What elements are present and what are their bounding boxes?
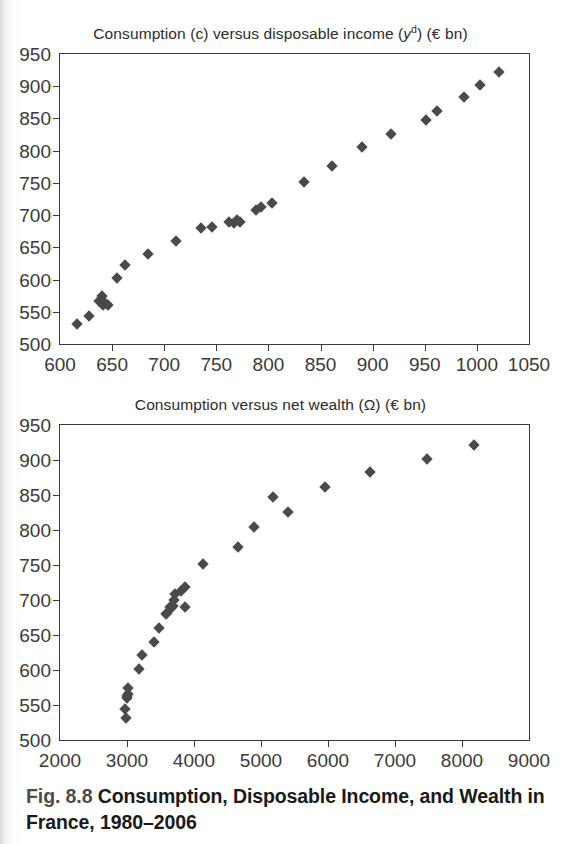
chart-2-data-point xyxy=(267,491,278,502)
chart-2-data-point xyxy=(232,541,243,552)
chart-1-ytick xyxy=(53,86,60,87)
chart-1-data-point xyxy=(493,66,504,77)
chart-2-xtick xyxy=(328,740,329,747)
chart-2-xtick-label: 4000 xyxy=(173,751,215,770)
chart-1-data-point xyxy=(266,197,277,208)
chart-1-data-point xyxy=(170,235,181,246)
chart-2-data-point xyxy=(137,649,148,660)
chart-1-xtick xyxy=(112,344,113,351)
chart-2-data-point xyxy=(197,559,208,570)
chart-1-xtick-label: 650 xyxy=(96,355,128,374)
chart-2-ytick-label: 800 xyxy=(19,521,51,540)
chart-2-title: Consumption versus net wealth (Ω) (€ bn) xyxy=(0,395,561,414)
chart-1-data-point xyxy=(432,105,443,116)
chart-2-ytick-label: 550 xyxy=(19,696,51,715)
chart-2-ytick-label: 700 xyxy=(19,591,51,610)
chart-1-data-point xyxy=(142,248,153,259)
chart-1-ytick xyxy=(53,312,60,313)
chart-1-data-point xyxy=(326,160,337,171)
figure-page: Consumption (c) versus disposable income… xyxy=(0,0,561,844)
chart-2-xtick xyxy=(261,740,262,747)
chart-1-ytick-label: 800 xyxy=(19,141,51,160)
chart-1-title-post: ) (€ bn) xyxy=(417,25,468,42)
chart-2-xtick-label: 9000 xyxy=(508,751,550,770)
chart-2-xtick-label: 8000 xyxy=(441,751,483,770)
chart-1-ytick xyxy=(53,215,60,216)
chart-2-data-point xyxy=(153,622,164,633)
chart-2-ytick xyxy=(53,495,60,496)
chart-1-ytick-label: 750 xyxy=(19,173,51,192)
chart-1-data-point xyxy=(84,310,95,321)
chart-1-xtick xyxy=(425,344,426,351)
chart-2-ytick xyxy=(53,705,60,706)
chart-2-ytick-label: 500 xyxy=(19,731,51,750)
chart-1-xtick xyxy=(164,344,165,351)
chart-1-ytick xyxy=(53,118,60,119)
chart-1-ytick-label: 900 xyxy=(19,77,51,96)
chart-1-ytick xyxy=(53,183,60,184)
chart-1-xtick-label: 850 xyxy=(305,355,337,374)
chart-1-data-point xyxy=(357,142,368,153)
chart-1-ytick-label: 550 xyxy=(19,302,51,321)
chart-1-data-point xyxy=(119,260,130,271)
chart-2-xtick-label: 5000 xyxy=(240,751,282,770)
chart-1-xtick xyxy=(321,344,322,351)
figure-number: Fig. 8.8 xyxy=(26,785,92,807)
chart-1-xtick-label: 750 xyxy=(200,355,232,374)
chart-1-ytick-label: 850 xyxy=(19,109,51,128)
chart-2-ytick xyxy=(53,565,60,566)
chart-1-data-point xyxy=(420,115,431,126)
chart-1-xtick xyxy=(216,344,217,351)
chart-2-data-point xyxy=(421,453,432,464)
chart-2-data-point xyxy=(120,704,131,715)
chart-1-xtick xyxy=(373,344,374,351)
chart-2-xtick xyxy=(127,740,128,747)
chart-2-data-layer: 5005506006507007508008509009502000300040… xyxy=(60,425,529,740)
chart-1-ytick-label: 500 xyxy=(19,335,51,354)
chart-1-data-point xyxy=(71,318,82,329)
chart-2-data-point xyxy=(179,601,190,612)
chart-1-xtick-label: 800 xyxy=(253,355,285,374)
chart-1-xtick xyxy=(477,344,478,351)
chart-1-ytick-label: 650 xyxy=(19,238,51,257)
chart-2-ytick-label: 750 xyxy=(19,556,51,575)
chart-2-xtick-label: 3000 xyxy=(106,751,148,770)
chart-2-data-point xyxy=(282,506,293,517)
chart-2-data-point xyxy=(121,713,132,724)
chart-1-title: Consumption (c) versus disposable income… xyxy=(0,24,561,43)
chart-1-xtick-label: 950 xyxy=(409,355,441,374)
chart-2-data-point xyxy=(148,636,159,647)
chart-2-data-point xyxy=(320,481,331,492)
chart-1-xtick-label: 600 xyxy=(44,355,76,374)
chart-2-xtick xyxy=(194,740,195,747)
chart-1-data-point xyxy=(298,177,309,188)
chart-1-xtick-label: 900 xyxy=(357,355,389,374)
chart-2-ytick-label: 900 xyxy=(19,451,51,470)
chart-2-plot-area: 5005506006507007508008509009502000300040… xyxy=(59,424,530,741)
figure-caption-text: Consumption, Disposable Income, and Weal… xyxy=(26,785,545,833)
chart-1-xtick-label: 1050 xyxy=(508,355,550,374)
chart-1-ytick xyxy=(53,280,60,281)
chart-2-xtick xyxy=(395,740,396,747)
chart-2-xtick-label: 2000 xyxy=(39,751,81,770)
caption-divider xyxy=(20,776,550,777)
chart-2-data-point xyxy=(133,663,144,674)
chart-1-data-point xyxy=(386,128,397,139)
chart-2-xtick-label: 7000 xyxy=(374,751,416,770)
chart-2-ytick xyxy=(53,635,60,636)
chart-2-title-pre: Consumption versus net wealth (Ω) (€ bn) xyxy=(135,396,426,413)
chart-1-plot-area: 5005506006507007508008509009506006507007… xyxy=(59,53,530,345)
chart-2-ytick-label: 650 xyxy=(19,626,51,645)
chart-1-data-point xyxy=(195,222,206,233)
chart-2-xtick-label: 6000 xyxy=(307,751,349,770)
chart-2-ytick-label: 600 xyxy=(19,661,51,680)
chart-1-xtick xyxy=(268,344,269,351)
chart-1-data-point xyxy=(459,92,470,103)
chart-1-ytick-label: 950 xyxy=(19,45,51,64)
chart-2-data-point xyxy=(468,439,479,450)
chart-1-xtick-label: 700 xyxy=(148,355,180,374)
chart-1-ytick xyxy=(53,247,60,248)
chart-2-ytick xyxy=(53,460,60,461)
chart-1-data-point xyxy=(112,273,123,284)
chart-1-ytick xyxy=(53,151,60,152)
